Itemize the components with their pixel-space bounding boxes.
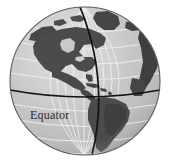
globe-figure: Equator: [0, 0, 170, 162]
globe-graphic: [0, 0, 170, 162]
equator-label: Equator: [30, 109, 69, 121]
sphere-rim-shading: [10, 7, 160, 155]
